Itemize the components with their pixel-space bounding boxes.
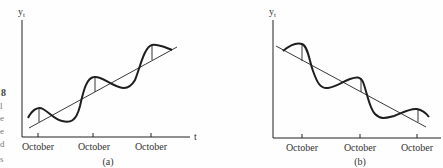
panel-b-caption: (b) [354, 156, 366, 168]
panel-b-tick-label: October [344, 142, 377, 153]
panel-b-trend-line [276, 46, 426, 127]
panel-b-tick-label: October [401, 142, 434, 153]
panel-a: yt t October October October (a) [18, 6, 197, 168]
figure-canvas: yt t October October October (a) yt Octo… [0, 0, 443, 168]
panel-a-caption: (a) [102, 156, 113, 168]
panel-a-seasonal-curve [28, 45, 172, 122]
panel-a-y-label: yt [18, 6, 25, 19]
panel-a-x-label: t [194, 131, 197, 142]
panel-a-tick-label: October [22, 141, 55, 152]
panel-b: yt October October October (b) [269, 6, 441, 168]
panel-b-tick-label: October [286, 142, 319, 153]
panel-a-tick-label: October [135, 141, 168, 152]
panel-b-seasonal-curve [283, 43, 429, 118]
panel-b-y-label: yt [269, 6, 276, 19]
panel-a-tick-label: October [78, 141, 111, 152]
